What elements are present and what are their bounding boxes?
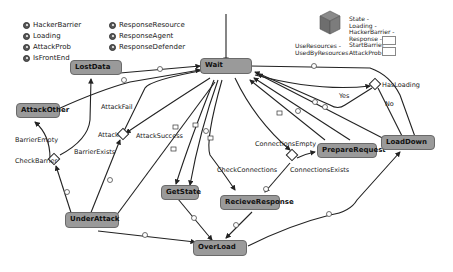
timeout-marker [234,223,239,228]
legend-label: HackerBarrier [33,21,81,29]
legend-label: ResponseResource [119,21,185,29]
legend-item[interactable]: ResponseResource [109,21,185,29]
legend-label: ResponseAgent [119,32,173,40]
transition-label-yes: Yes [339,92,350,100]
parameter-icon [109,44,116,51]
branch-label-checkbarrier: CheckBarrier [15,157,57,165]
parameter-icon [23,55,30,62]
timeout-marker [296,109,301,114]
legend-label: ResponseDefender [119,43,185,51]
timeout-marker [158,67,163,72]
timeout-marker [65,190,70,195]
state-lostdata[interactable]: LostData [70,60,122,75]
legend-label: AttackProb [33,43,71,51]
timeout-marker [323,105,328,110]
timeout-marker [143,233,148,238]
legend-item[interactable]: IsFrontEnd [23,54,70,62]
timeout-marker [192,216,197,221]
parameter-icon [23,44,30,51]
transition-label-attacksuccess: AttackSuccess [136,132,183,140]
branch-label-attack: Attack [98,131,119,139]
edge-barrierexists [60,79,91,155]
attackprob-legend-label: AttackProb [349,50,381,57]
message-marker [173,125,178,129]
parameter-icon [109,33,116,40]
parameter-icon [23,22,30,29]
transition-label-barrierexists: BarrierExists [74,148,115,156]
state-getstate[interactable]: GetState [161,185,199,200]
timeout-marker [122,78,127,83]
attackprob-legend-box [382,47,396,56]
message-marker [277,111,282,115]
legend-label: Loading [33,32,61,40]
use-resources-label: UseResources - UsedByResources [295,43,348,56]
legend-item[interactable]: ResponseAgent [109,32,173,40]
transition-label-no: No [385,100,394,108]
branch-attack[interactable] [117,128,128,139]
state-legend-box [382,36,396,45]
state-overload[interactable]: OverLoad [193,240,247,256]
timeout-marker [313,100,318,105]
transition-label-connectionsexists: ConnectionsExists [290,166,349,174]
timeout-marker [108,178,113,183]
state-wait[interactable]: Wait [200,58,252,74]
legend-item[interactable]: HackerBarrier [23,21,81,29]
message-marker [171,147,176,151]
timeout-marker [327,212,332,217]
state-recieveresponse[interactable]: RecieveResponse [220,195,280,210]
parameter-icon [23,33,30,40]
edge-connectionsexists [297,152,315,158]
timeout-marker [312,64,317,69]
transition-label-barrierempty: BarrierEmpty [15,136,58,144]
timeout-marker [204,129,209,134]
legend-label: IsFrontEnd [33,54,70,62]
legend-item[interactable]: Loading [23,32,61,40]
state-loaddown[interactable]: LoadDown [381,135,435,150]
branch-checkconnections[interactable] [286,149,297,160]
timeout-marker [264,187,269,192]
transition-label-attackfail: AttackFail [101,103,133,111]
edge-recieveresponse-overload [226,212,252,238]
legend-item[interactable]: AttackProb [23,43,71,51]
branch-label-hasloading: HasLoading [382,81,420,89]
state-preparerequest[interactable]: PrepareRequest [317,143,377,158]
state-attackother[interactable]: AttackOther [16,103,60,118]
message-marker [208,136,213,140]
parameter-icon [109,22,116,29]
transition-label-connectionsempty: ConnectionsEmpty [255,140,316,148]
message-marker [193,123,198,127]
legend-item[interactable]: ResponseDefender [109,43,185,51]
state-underattack[interactable]: UnderAttack [65,212,119,228]
resource-cube-icon [320,11,340,34]
branch-label-checkconnections: CheckConnections [217,166,277,174]
